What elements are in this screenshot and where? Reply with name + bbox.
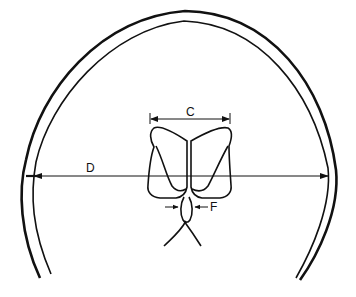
label-f: F — [210, 201, 217, 213]
skull-outer-contour — [22, 11, 337, 280]
label-c: C — [186, 106, 195, 118]
skull-diagram — [0, 0, 356, 297]
label-d: D — [86, 162, 95, 174]
third-ventricle — [181, 197, 192, 222]
skull-inner-contour — [33, 21, 329, 278]
right-ventricle — [191, 128, 232, 198]
left-ventricle — [148, 127, 187, 198]
